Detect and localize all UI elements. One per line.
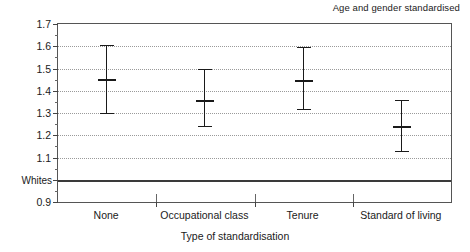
error-bar-lower-cap [297,109,311,110]
chart-caption: Age and gender standardised [333,2,460,13]
x-axis-tick-inner [255,194,256,202]
y-axis-minor-tick [55,102,58,103]
error-bar-lower-cap [395,151,409,152]
gridline [58,135,451,136]
x-axis-tick-inner [156,194,157,202]
y-axis-tick [53,180,58,181]
error-bar-upper-cap [198,69,212,70]
x-axis-category-label: Tenure [287,209,319,221]
error-bar-stem [401,100,402,151]
x-axis-tick [255,202,256,207]
y-axis-label: 1.7 [36,18,51,30]
y-axis-tick [53,46,58,47]
y-axis-label: 1.4 [36,85,51,97]
error-bar-stem [303,47,304,108]
y-axis-minor-tick [55,57,58,58]
x-axis-category-label: None [94,209,119,221]
error-bar-stem [204,69,205,127]
gridline [58,91,451,92]
error-bar-lower-cap [100,113,114,114]
x-axis-tick-inner [353,194,354,202]
error-bar-upper-cap [100,45,114,46]
y-axis-minor-tick [55,124,58,125]
y-axis-minor-tick [55,169,58,170]
y-axis-label: 1.2 [36,129,51,141]
gridline [58,69,451,70]
y-axis-label: 1.3 [36,107,51,119]
data-point-marker [196,100,214,102]
error-bar-upper-cap [395,100,409,101]
y-axis-tick [53,135,58,136]
gridline [58,158,451,159]
data-point-marker [393,126,411,128]
x-axis-category-label: Standard of living [360,209,441,221]
y-axis-label: 0.9 [36,196,51,208]
y-axis-tick [53,91,58,92]
y-axis-tick [53,24,58,25]
x-axis-tick [353,202,354,207]
y-axis-tick [53,113,58,114]
y-axis-label: 1.5 [36,63,51,75]
x-axis-category-label: Occupational class [160,209,248,221]
plot-frame: 1.71.61.51.41.31.21.1Whites0.9 [57,23,452,203]
data-point-marker [295,80,313,82]
reference-line-whites [58,180,451,182]
x-axis-tick [156,202,157,207]
y-axis-label: 1.1 [36,152,51,164]
y-axis-label: Whites [21,174,52,185]
data-point-marker [98,79,116,81]
y-axis-tick [53,158,58,159]
y-axis-minor-tick [55,80,58,81]
plot-area: 1.71.61.51.41.31.21.1Whites0.9 [58,24,451,202]
y-axis-minor-tick [55,146,58,147]
y-axis-tick [53,202,58,203]
x-axis-title: Type of standardisation [0,230,470,242]
y-axis-minor-tick [55,35,58,36]
error-bar-lower-cap [198,126,212,127]
gridline [58,113,451,114]
gridline [58,46,451,47]
y-axis-minor-tick [55,191,58,192]
chart-figure: Age and gender standardised 1.71.61.51.4… [0,0,470,252]
error-bar-upper-cap [297,47,311,48]
y-axis-label: 1.6 [36,40,51,52]
y-axis-tick [53,69,58,70]
